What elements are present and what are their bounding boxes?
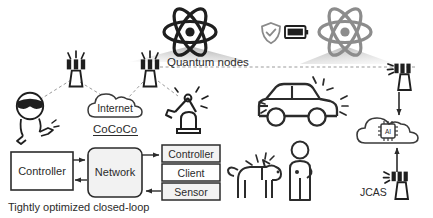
figure-canvas: Internet <box>0 0 433 218</box>
jcas-label: JCAS <box>360 186 387 198</box>
closed-loop-caption: Tightly optimized closed-loop <box>8 201 149 213</box>
cococo-label: CoCoCo <box>93 123 137 135</box>
network-architecture-diagram: Internet <box>0 0 433 218</box>
quantum-nodes-label: Quantum nodes <box>167 56 249 68</box>
stack-label-sensor: Sensor <box>174 186 208 198</box>
loop-network-label: Network <box>95 166 136 178</box>
ai-chip-label: AI <box>385 128 391 135</box>
internet-label: Internet <box>97 102 133 114</box>
stack-label-controller: Controller <box>168 148 214 160</box>
loop-controller-label: Controller <box>18 165 66 177</box>
stack-label-client: Client <box>178 167 205 179</box>
